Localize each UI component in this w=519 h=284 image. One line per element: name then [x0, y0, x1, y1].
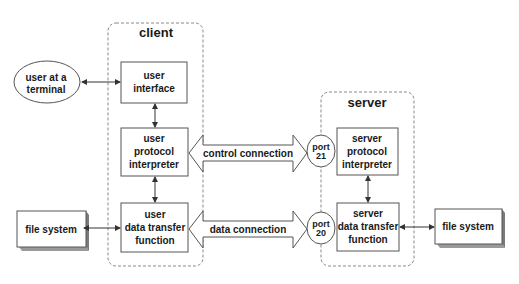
server-dtp-line1: server [353, 208, 383, 219]
user-interface-line2: interface [133, 83, 175, 94]
server-label: server [347, 95, 386, 110]
ftp-diagram: client server user at a terminal user in… [0, 0, 519, 284]
control-connection-arrow: control connection [189, 135, 307, 172]
port-20-line2: 20 [316, 228, 326, 238]
client-label: client [139, 25, 174, 40]
port-21: port 21 [307, 135, 335, 167]
file-system-left-label: file system [25, 224, 77, 235]
user-dtp-line2: data transfer [125, 222, 186, 233]
server-pi-box: server protocol interpreter [337, 128, 398, 175]
server-pi-line2: protocol [347, 146, 387, 157]
data-connection-arrow: data connection [189, 211, 307, 248]
port-21-line2: 21 [316, 151, 326, 161]
port-20: port 20 [307, 212, 335, 244]
user-pi-line2: protocol [134, 146, 174, 157]
user-pi-box: user protocol interpreter [121, 128, 188, 176]
server-dtp-line3: function [348, 234, 387, 245]
server-pi-line3: interpreter [342, 159, 392, 170]
file-system-left: file system [17, 211, 89, 251]
user-terminal: user at a terminal [14, 61, 80, 103]
file-system-right: file system [435, 209, 505, 248]
user-interface-box: user interface [121, 62, 187, 103]
user-pi-line1: user [143, 133, 164, 144]
user-dtp-box: user data transfer function [121, 203, 188, 252]
file-system-right-label: file system [442, 221, 494, 232]
user-terminal-line1: user at a [25, 72, 67, 83]
server-dtp-box: server data transfer function [337, 203, 399, 251]
user-pi-line3: interpreter [129, 159, 179, 170]
user-dtp-line1: user [144, 209, 165, 220]
user-terminal-line2: terminal [27, 84, 66, 95]
server-pi-line1: server [352, 133, 382, 144]
server-dtp-line2: data transfer [338, 221, 399, 232]
control-connection-label: control connection [203, 148, 293, 159]
user-dtp-line3: function [135, 235, 174, 246]
data-connection-label: data connection [210, 224, 287, 235]
user-interface-line1: user [143, 70, 164, 81]
